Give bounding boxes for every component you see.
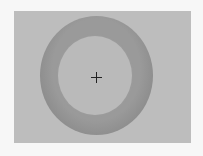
crosshair-icon [91,72,102,83]
gray-panel [14,11,191,143]
